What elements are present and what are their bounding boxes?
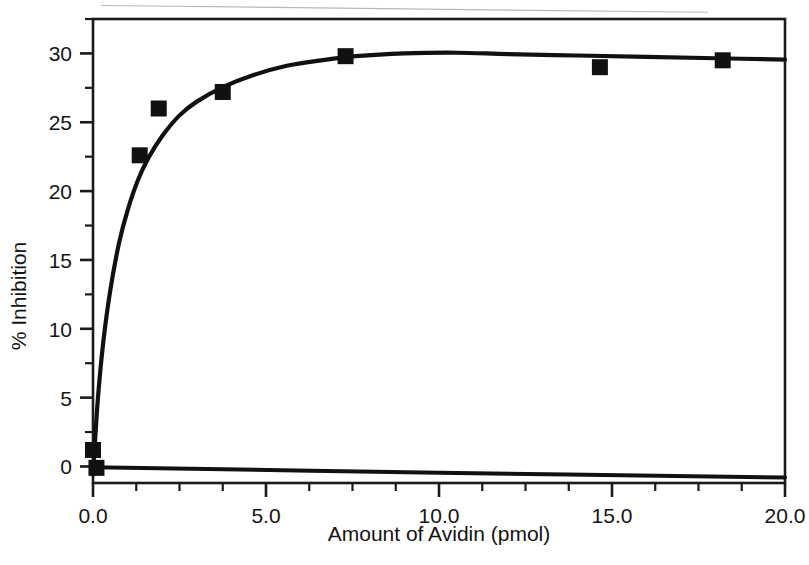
y-tick-label: 5: [60, 387, 72, 410]
data-point-marker: [338, 48, 354, 64]
y-axis-tick-labels: 051015202530: [49, 42, 72, 478]
y-tick-label: 20: [49, 180, 72, 203]
y-tick-label: 30: [49, 42, 72, 65]
data-point-marker: [88, 460, 104, 476]
y-tick-label: 0: [60, 455, 72, 478]
fit-curve: [93, 53, 785, 475]
y-tick-label: 25: [49, 111, 72, 134]
y-axis-ticks: [80, 19, 93, 466]
data-point-marker: [85, 442, 101, 458]
data-point-marker: [132, 147, 148, 163]
data-point-marker: [715, 52, 731, 68]
x-tick-label: 20.0: [765, 504, 806, 527]
plot-frame: [93, 19, 785, 483]
data-point-marker: [592, 59, 608, 75]
inhibition-vs-avidin-chart: 051015202530 0.05.010.015.020.0 Amount o…: [0, 0, 809, 565]
x-axis-title: Amount of Avidin (pmol): [328, 522, 551, 545]
data-point-marker: [151, 100, 167, 116]
baseline-curve: [93, 467, 785, 477]
x-tick-label: 5.0: [251, 504, 280, 527]
y-axis-title: % Inhibition: [7, 242, 30, 351]
figure-root: 051015202530 0.05.010.015.020.0 Amount o…: [0, 0, 809, 565]
x-axis-ticks: [93, 483, 785, 497]
y-tick-label: 15: [49, 249, 72, 272]
data-point-marker: [215, 84, 231, 100]
plot-border: [93, 19, 785, 483]
y-tick-label: 10: [49, 318, 72, 341]
x-tick-label: 15.0: [592, 504, 633, 527]
x-tick-label: 0.0: [78, 504, 107, 527]
